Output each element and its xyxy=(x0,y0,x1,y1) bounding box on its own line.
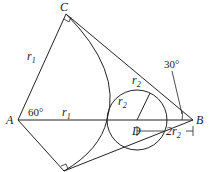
label-D: D xyxy=(131,124,141,138)
segment-A-bottom xyxy=(18,120,64,171)
segment-AC xyxy=(18,14,66,120)
arc-r1 xyxy=(64,14,110,171)
label-angle-A: 60° xyxy=(28,106,43,118)
label-A: A xyxy=(5,113,14,127)
label-dist-2r2: 2r2 xyxy=(166,124,181,140)
label-r2-a: r2 xyxy=(118,94,127,110)
label-r1-left: r1 xyxy=(27,49,36,65)
radius-r2 xyxy=(137,93,150,120)
geometry-diagram: C A B D r1 r1 60° r2 r2 30° 2r2 xyxy=(0,0,211,172)
angle-arc-B xyxy=(182,111,183,120)
label-C: C xyxy=(60,0,69,14)
angle-pointer-B xyxy=(172,71,182,114)
label-angle-B: 30° xyxy=(164,58,179,70)
label-r1-mid: r1 xyxy=(62,105,71,121)
label-B: B xyxy=(196,113,204,127)
